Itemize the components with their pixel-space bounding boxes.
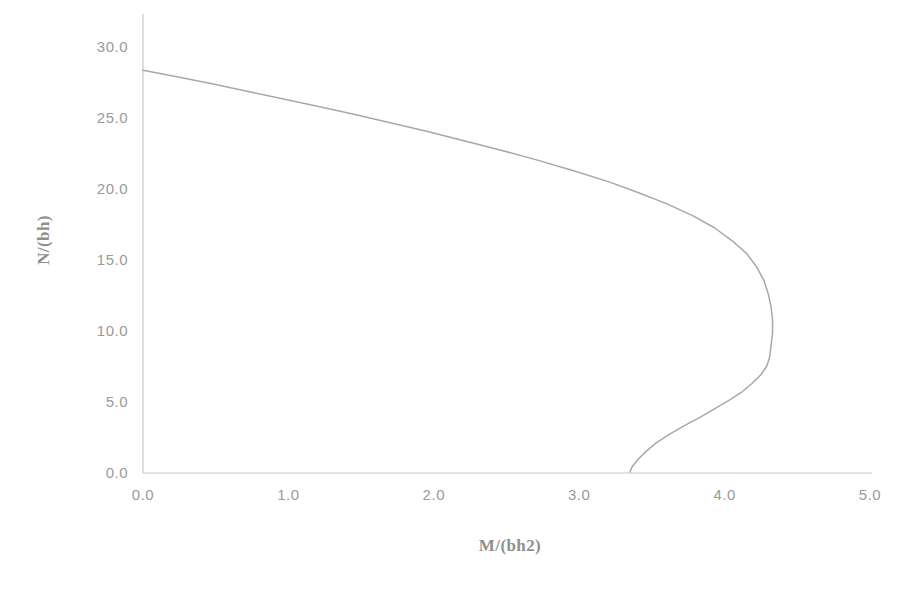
x-tick-label: 1.0 — [277, 486, 299, 503]
y-tick-label: 10.0 — [66, 322, 128, 339]
series-group — [143, 70, 773, 472]
x-tick-label: 3.0 — [568, 486, 590, 503]
x-tick-label: 2.0 — [423, 486, 445, 503]
y-tick-label: 25.0 — [66, 109, 128, 126]
x-tick-label: 4.0 — [713, 486, 735, 503]
x-axis-title: M/(bh2) — [479, 536, 541, 556]
chart-page: 0.05.010.015.020.025.030.0 0.01.02.03.04… — [0, 0, 922, 599]
y-tick-label: 30.0 — [66, 38, 128, 55]
data-curve-m-n-interaction — [143, 70, 773, 472]
chart-canvas — [0, 0, 922, 599]
y-tick-label: 20.0 — [66, 180, 128, 197]
x-tick-label: 5.0 — [859, 486, 881, 503]
y-axis-title: N/(bh) — [34, 215, 54, 265]
x-tick-label: 0.0 — [132, 486, 154, 503]
axes-group — [143, 14, 872, 473]
y-tick-label: 15.0 — [66, 251, 128, 268]
y-tick-label: 5.0 — [66, 393, 128, 410]
y-tick-label: 0.0 — [66, 464, 128, 481]
